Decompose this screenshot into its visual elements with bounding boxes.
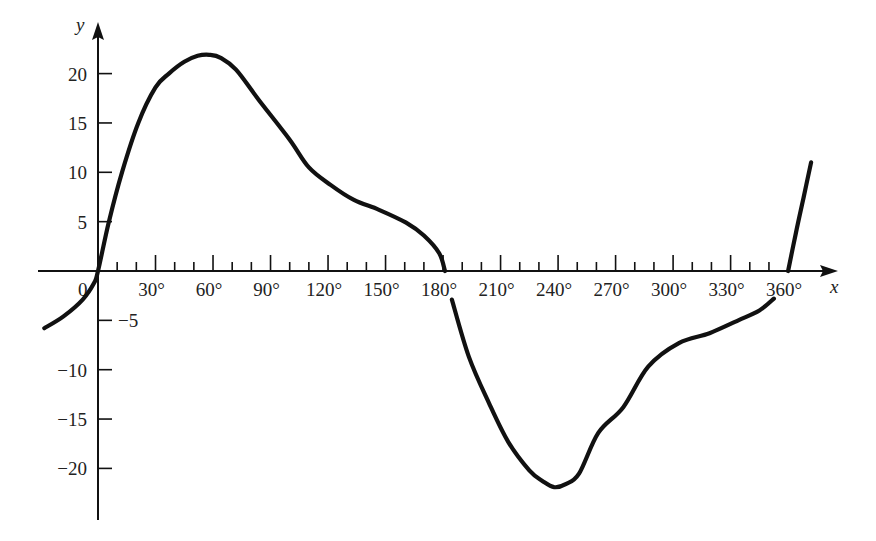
x-tick-label: 150° <box>363 279 399 300</box>
y-tick-label: −15 <box>57 409 87 430</box>
x-tick-label: 300° <box>651 279 687 300</box>
chart: y x 0 30°60°90°120°150°180°210°240°270°3… <box>0 0 876 541</box>
x-tick-label: 90° <box>253 279 280 300</box>
x-tick-label: 330° <box>709 279 745 300</box>
x-tick-label: 210° <box>479 279 515 300</box>
y-tick-label: 20 <box>68 64 87 85</box>
y-tick-label: 15 <box>68 113 87 134</box>
x-ticks: 30°60°90°120°150°180°210°240°270°300°330… <box>117 255 802 300</box>
axes: y x 0 <box>38 14 839 520</box>
y-tick-label: 5 <box>78 212 88 233</box>
y-axis-label: y <box>74 14 85 35</box>
x-tick-label: 60° <box>196 279 223 300</box>
x-tick-label: 180° <box>421 279 457 300</box>
y-tick-label: −20 <box>57 458 87 479</box>
x-tick-label: 270° <box>594 279 630 300</box>
y-tick-label: −10 <box>57 360 87 381</box>
y-tick-label: −5 <box>118 310 138 331</box>
x-tick-label: 120° <box>306 279 342 300</box>
data-curve <box>788 162 811 271</box>
x-tick-label: 360° <box>766 279 802 300</box>
x-tick-label: 240° <box>536 279 572 300</box>
x-axis-label: x <box>829 276 839 297</box>
data-curve <box>452 299 774 488</box>
x-tick-label: 30° <box>138 279 165 300</box>
y-tick-label: 10 <box>68 162 87 183</box>
